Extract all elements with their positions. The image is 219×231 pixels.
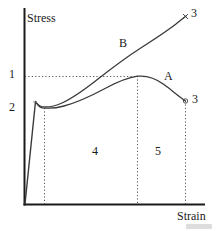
region-label-4: 4 xyxy=(92,145,98,157)
curve-a-path xyxy=(36,76,186,108)
elastic-loading-line xyxy=(25,102,36,205)
curve-a-label: A xyxy=(164,70,173,82)
stress-strain-figure: Stress Strain 1 2 B A 3 3 4 5 xyxy=(0,0,219,231)
y-axis-label: Stress xyxy=(27,12,56,24)
x-axis-label: Strain xyxy=(177,210,206,222)
region-label-5: 5 xyxy=(155,145,161,157)
curve-b-endpoint-label: 3 xyxy=(191,7,197,19)
curve-b-label: B xyxy=(119,37,127,49)
curve-b-fracture-marker xyxy=(183,14,188,19)
curve-b-path xyxy=(36,16,187,107)
scan-artifact xyxy=(186,224,212,229)
y-tick-label-2: 2 xyxy=(9,101,15,113)
y-tick-label-1: 1 xyxy=(9,68,15,80)
curve-a-endpoint-label: 3 xyxy=(192,93,198,105)
stress-strain-plot xyxy=(0,0,219,231)
